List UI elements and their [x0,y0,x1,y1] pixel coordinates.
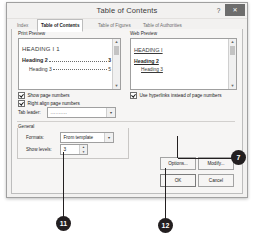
print-preview-heading-2: Heading 2 [22,57,48,63]
dot-leader [53,68,107,70]
callout-leader-11 [63,152,64,220]
scroll-up-icon[interactable]: ▲ [229,39,236,45]
web-preview-heading-1: HEADING I [134,47,227,53]
print-preview-heading-3: Heading 3 [29,66,52,72]
callout-leader-12 [165,168,166,222]
scrollbar-thumb[interactable] [230,46,235,55]
tab-leader-select[interactable]: .......... ▼ [47,107,116,118]
dialog-title: Table of Contents [7,6,247,15]
use-hyperlinks-checkbox[interactable]: Use hyperlinks instead of page numbers [130,92,221,99]
scrollbar-thumb[interactable] [114,46,119,55]
callout-leader-7 [178,158,234,159]
show-page-numbers-label: Show page numbers [28,93,70,98]
tab-leader-label: Tab leader: [18,110,41,115]
web-preview-heading-2: Heading 2 [134,58,227,64]
cancel-button[interactable]: Cancel [198,174,234,187]
print-preview-heading-3-row: Heading 3 5 [29,66,111,72]
callout-7: 7 [231,150,246,165]
section-divider [17,121,235,122]
web-preview-label: Web Preview [130,31,157,36]
general-group-frame [17,128,129,159]
close-icon[interactable]: ✕ [225,4,245,16]
use-hyperlinks-label: Use hyperlinks instead of page numbers [140,93,222,98]
checkbox-box[interactable] [18,100,25,107]
checkbox-box[interactable] [18,92,25,99]
checkbox-box[interactable] [130,92,137,99]
print-preview-page-3: 5 [108,66,111,72]
print-preview-heading-2-row: Heading 2 3 [22,57,111,63]
print-preview-scrollbar[interactable]: ▲ ▼ [112,39,120,89]
callout-leader-7-stem [177,136,178,158]
callout-11: 11 [56,216,71,231]
chevron-down-icon[interactable]: ▼ [106,108,115,117]
scroll-down-icon[interactable]: ▼ [229,83,236,89]
right-align-page-numbers-label: Right align page numbers [28,101,80,106]
scroll-down-icon[interactable]: ▼ [113,83,120,89]
print-preview-heading-1: HEADING I 1 [22,46,111,52]
table-of-contents-dialog: Table of Contents ? ✕ Index Table of Con… [6,2,248,198]
print-preview-box[interactable]: HEADING I 1 Heading 2 3 Heading 3 5 ▲ ▼ [18,38,121,90]
dialog-panel: Print Preview HEADING I 1 Heading 2 3 He… [11,29,243,194]
modify-button[interactable]: Modify... [198,157,234,170]
web-preview-scrollbar[interactable]: ▲ ▼ [228,39,236,89]
show-page-numbers-checkbox[interactable]: Show page numbers [18,92,70,99]
web-preview-box[interactable]: HEADING I Heading 2 Heading 3 ▲ ▼ [130,38,237,90]
scroll-up-icon[interactable]: ▲ [113,39,120,45]
tab-leader-value: .......... [48,110,106,115]
web-preview-content: HEADING I Heading 2 Heading 3 [134,42,227,88]
print-preview-content: HEADING I 1 Heading 2 3 Heading 3 5 [22,42,111,88]
right-align-page-numbers-checkbox[interactable]: Right align page numbers [18,100,80,107]
print-preview-page-2: 3 [108,57,111,63]
dot-leader [49,60,107,62]
help-icon[interactable]: ? [214,6,223,15]
web-preview-heading-3: Heading 3 [141,67,227,72]
callout-12: 12 [158,218,173,233]
dialog-titlebar: Table of Contents ? ✕ [7,3,247,19]
tab-table-of-contents[interactable]: Table of Contents [37,19,83,32]
